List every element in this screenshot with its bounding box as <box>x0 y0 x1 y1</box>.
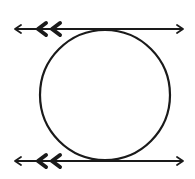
circle <box>40 30 170 160</box>
bottom-tangent-line <box>15 155 183 167</box>
tangent-lines-circle-diagram <box>0 0 195 179</box>
top-tangent-line <box>15 23 183 35</box>
